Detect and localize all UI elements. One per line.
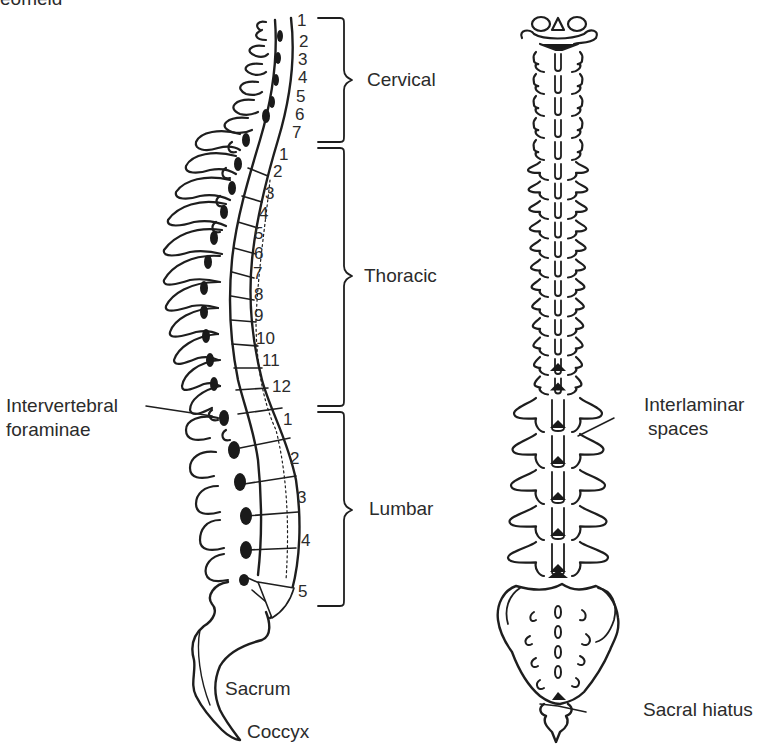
region-brackets xyxy=(318,18,352,606)
vertebra-c5: 5 xyxy=(296,88,305,106)
vertebra-t9: 9 xyxy=(254,307,263,325)
sacral-foramina xyxy=(526,606,590,689)
vertebra-c3: 3 xyxy=(298,51,307,69)
vertebra-t2: 2 xyxy=(273,163,282,181)
posterior-spine xyxy=(521,17,597,50)
vertebra-c2: 2 xyxy=(299,33,308,51)
vertebra-t7: 7 xyxy=(253,265,262,283)
label-cervical: Cervical xyxy=(367,69,436,91)
vertebra-c6: 6 xyxy=(295,106,304,124)
label-sacral-hiatus: Sacral hiatus xyxy=(643,699,753,721)
vertebra-t8: 8 xyxy=(254,286,263,304)
vertebra-l3: 3 xyxy=(297,489,306,507)
vertebra-t4: 4 xyxy=(259,205,268,223)
posterior-vertebrae xyxy=(508,52,608,576)
label-intervertebral: Intervertebral xyxy=(6,395,118,417)
vertebra-t11: 11 xyxy=(262,352,280,370)
label-interlaminar: Interlaminar xyxy=(644,394,744,416)
vertebra-t10: 10 xyxy=(256,330,275,348)
label-thoracic: Thoracic xyxy=(364,265,437,287)
lateral-spine xyxy=(230,18,299,618)
vertebra-l1: 1 xyxy=(283,411,292,429)
label-spaces: spaces xyxy=(648,418,708,440)
vertebra-c7: 7 xyxy=(292,124,301,142)
label-coccyx: Coccyx xyxy=(247,721,309,743)
label-lumbar: Lumbar xyxy=(369,498,433,520)
spine-illustration xyxy=(0,0,779,750)
vertebra-l5: 5 xyxy=(298,583,307,601)
spinous-processes xyxy=(164,22,268,582)
label-sacrum: Sacrum xyxy=(225,678,290,700)
vertebra-l2: 2 xyxy=(290,450,299,468)
label-foraminae: foraminae xyxy=(6,419,91,441)
vertebra-t5: 5 xyxy=(254,225,263,243)
vertebra-c1: 1 xyxy=(297,12,306,30)
vertebra-t6: 6 xyxy=(254,245,263,263)
sacrum-lateral xyxy=(192,582,269,740)
sacrum-posterior xyxy=(498,570,619,742)
vertebra-l4: 4 xyxy=(301,532,310,550)
vertebra-t12: 12 xyxy=(272,378,291,396)
vertebra-t3: 3 xyxy=(265,185,274,203)
vertebra-c4: 4 xyxy=(298,69,307,87)
